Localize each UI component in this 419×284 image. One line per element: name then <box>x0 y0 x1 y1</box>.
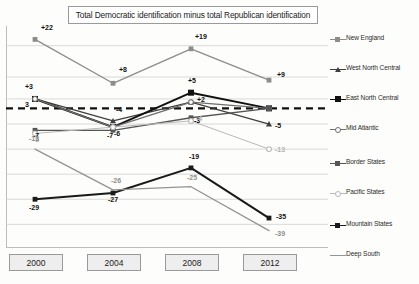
x-axis-labels: 2000200420082012 <box>6 254 328 276</box>
legend-item-deep-south[interactable]: Deep South <box>330 250 380 260</box>
data-label: -13 <box>275 146 285 153</box>
data-label: -29 <box>29 204 39 211</box>
data-label: -39 <box>275 230 285 237</box>
legend-item-pacific-states[interactable]: Pacific States <box>330 188 385 198</box>
data-label: -35 <box>276 213 286 220</box>
data-label: -26 <box>111 177 121 184</box>
chart-title: Total Democratic identification minus to… <box>68 6 318 24</box>
data-label: -4 <box>116 106 122 113</box>
legend-swatch-icon <box>330 35 346 44</box>
x-axis-tick-label: 2012 <box>261 258 280 268</box>
x-axis-tick-2004: 2004 <box>87 254 141 271</box>
data-label: +9 <box>277 71 285 78</box>
legend-item-new-england[interactable]: New England <box>330 34 384 44</box>
x-axis-tick-label: 2008 <box>183 258 202 268</box>
data-label: -27 <box>108 196 118 203</box>
legend-item-mountain-states[interactable]: Mountain States <box>330 220 392 230</box>
data-label: +3 <box>25 83 33 90</box>
chart-legend: New EnglandWest North CentralEast North … <box>330 34 419 264</box>
legend-item-mid-atlantic[interactable]: Mid Atlantic <box>330 124 379 134</box>
x-axis-tick-2012: 2012 <box>243 254 297 271</box>
legend-item-border-states[interactable]: Border States <box>330 158 385 168</box>
legend-swatch-icon <box>330 95 346 104</box>
legend-item-label: Deep South <box>346 250 380 258</box>
series-new-england <box>33 37 272 86</box>
data-label: +2 <box>197 96 205 103</box>
chart-title-text: Total Democratic identification minus to… <box>76 10 311 20</box>
series-deep-south <box>35 149 269 230</box>
legend-item-label: East North Central <box>346 94 398 102</box>
legend-swatch-icon <box>330 65 346 74</box>
data-label: -4 <box>196 115 202 122</box>
x-axis-tick-label: 2000 <box>27 258 46 268</box>
data-label: -5 <box>275 122 281 129</box>
legend-item-label: Mid Atlantic <box>346 124 379 132</box>
legend-item-label: Pacific States <box>346 188 385 196</box>
data-label: -13 <box>29 135 39 142</box>
data-label: +22 <box>41 24 53 31</box>
plot-area: +22+8+19+9+3-4+2-53-6+5-7-7-3-8-4-13-29-… <box>6 26 328 248</box>
legend-swatch-icon <box>330 189 346 198</box>
legend-swatch-icon <box>330 251 346 260</box>
x-axis-tick-label: 2004 <box>105 258 124 268</box>
legend-swatch-icon <box>330 125 346 134</box>
legend-item-label: Mountain States <box>346 220 392 228</box>
chart-container: Total Democratic identification minus to… <box>0 0 419 284</box>
legend-swatch-icon <box>330 159 346 168</box>
data-label: -6 <box>114 130 120 137</box>
legend-item-label: West North Central <box>346 64 400 72</box>
legend-swatch-icon <box>330 221 346 230</box>
data-label: +8 <box>119 66 127 73</box>
legend-item-label: New England <box>346 34 384 42</box>
legend-item-east-north-central[interactable]: East North Central <box>330 94 398 104</box>
x-axis-tick-2008: 2008 <box>165 254 219 271</box>
data-label: +5 <box>188 77 196 84</box>
data-label: 3 <box>25 101 29 108</box>
legend-item-west-north-central[interactable]: West North Central <box>330 64 400 74</box>
data-label: -19 <box>189 153 199 160</box>
data-label: +19 <box>195 33 207 40</box>
data-label: -25 <box>187 174 197 181</box>
data-label: -7 <box>107 132 113 139</box>
x-axis-tick-2000: 2000 <box>9 254 63 271</box>
legend-item-label: Border States <box>346 158 385 166</box>
